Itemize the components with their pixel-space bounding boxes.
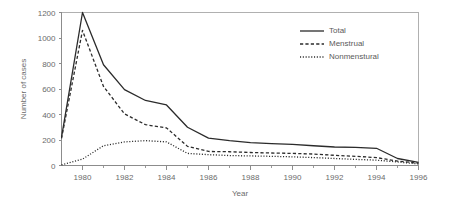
y-axis-title: Number of cases (19, 59, 28, 119)
y-tick-label-400: 400 (42, 111, 56, 120)
legend-label-menstrual: Menstrual (329, 39, 364, 48)
y-tick-label-1200: 1200 (38, 9, 56, 18)
legend-label-total: Total (329, 26, 346, 35)
x-tick-label-1980: 1980 (74, 173, 92, 182)
x-tick-label-1994: 1994 (368, 173, 386, 182)
x-tick-label-1988: 1988 (242, 173, 260, 182)
legend-label-nonmenstural: Nonmenstural (329, 52, 379, 61)
x-tick-label-1986: 1986 (200, 173, 218, 182)
series-line-menstrual (62, 30, 419, 163)
x-tick-label-1996: 1996 (410, 173, 428, 182)
x-axis-ticks: 198019821984198619881990199219941996 (74, 166, 428, 182)
chart-legend: TotalMenstrualNonmenstural (300, 26, 379, 61)
plot-frame (62, 13, 419, 166)
x-tick-label-1990: 1990 (284, 173, 302, 182)
chart-container: 020040060080010001200 198019821984198619… (0, 0, 453, 208)
y-tick-label-1000: 1000 (38, 34, 56, 43)
x-axis-title: Year (232, 189, 249, 198)
x-tick-label-1984: 1984 (158, 173, 176, 182)
x-tick-label-1982: 1982 (116, 173, 134, 182)
y-tick-label-0: 0 (51, 162, 56, 171)
y-tick-label-800: 800 (42, 60, 56, 69)
y-tick-label-600: 600 (42, 85, 56, 94)
y-tick-label-200: 200 (42, 136, 56, 145)
series-line-total (62, 13, 419, 163)
data-series-group (62, 13, 419, 165)
x-tick-label-1992: 1992 (326, 173, 344, 182)
line-chart: 020040060080010001200 198019821984198619… (0, 0, 453, 208)
y-axis-ticks: 020040060080010001200 (38, 9, 62, 171)
